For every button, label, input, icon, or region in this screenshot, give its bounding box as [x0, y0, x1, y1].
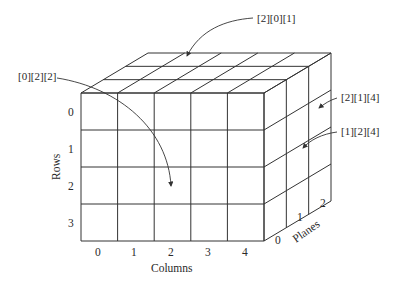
top-col-line	[118, 53, 185, 93]
column-tick-3: 3	[205, 246, 211, 258]
plane-tick-2: 2	[320, 197, 326, 209]
top-col-line	[227, 53, 294, 93]
side-row-line	[264, 127, 331, 167]
top-col-line	[191, 53, 258, 93]
column-tick-4: 4	[242, 246, 248, 258]
annotation-arrow-124	[303, 132, 337, 148]
plane-tick-1: 1	[297, 211, 303, 223]
row-tick-0: 0	[68, 106, 74, 118]
annotation-label-214: [2][1][4]	[341, 91, 379, 103]
rows-axis-label: Rows	[50, 153, 62, 180]
side-row-line	[264, 90, 331, 130]
annotation-label-022: [0][2][2]	[18, 70, 56, 82]
top-col-line	[154, 53, 221, 93]
cube-grid	[81, 53, 331, 241]
annotation-arrow-201	[187, 18, 253, 56]
plane-tick-0: 0	[275, 234, 281, 246]
annotation-label-201: [2][0][1]	[257, 12, 295, 24]
columns-axis-label: Columns	[151, 262, 193, 274]
row-tick-3: 3	[68, 217, 74, 229]
annotation-arrow-214	[319, 98, 337, 108]
row-tick-2: 2	[68, 180, 74, 192]
planes-axis-label: Planes	[290, 217, 322, 244]
row-tick-1: 1	[68, 143, 74, 155]
column-tick-1: 1	[131, 246, 137, 258]
column-tick-2: 2	[168, 246, 174, 258]
annotation-label-124: [1][2][4]	[341, 125, 379, 137]
column-tick-0: 0	[95, 246, 101, 258]
side-row-line	[264, 53, 331, 93]
array-cube-diagram: [2][0][1] [0][2][2] [2][1][4] [1][2][4] …	[0, 0, 397, 281]
